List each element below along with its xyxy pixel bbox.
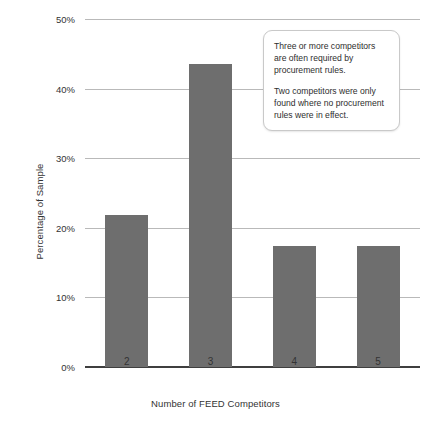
bar-2[interactable] <box>105 215 148 367</box>
y-tick-label-40%: 40% <box>13 83 75 94</box>
bar-4[interactable] <box>273 246 316 367</box>
y-tick-label-0%: 0% <box>13 362 75 373</box>
bar-5[interactable] <box>357 246 400 367</box>
annotation-callout: Three or more competitors are often requ… <box>263 30 400 131</box>
x-tick-label-4: 4 <box>273 356 316 367</box>
y-axis-title: Percentage of Sample <box>26 0 52 423</box>
bar-3[interactable] <box>189 64 232 367</box>
x-tick-label-3: 3 <box>189 356 232 367</box>
x-tick-label-5: 5 <box>357 356 400 367</box>
y-tick-label-10%: 10% <box>13 292 75 303</box>
x-axis-title: Number of FEED Competitors <box>0 398 431 409</box>
y-tick-label-50%: 50% <box>13 14 75 25</box>
y-tick-label-20%: 20% <box>13 222 75 233</box>
y-tick-label-30%: 30% <box>13 153 75 164</box>
annotation-paragraph-2: Two competitors were only found where no… <box>274 85 390 122</box>
bar-chart: Percentage of Sample 0%10%20%30%40%50% 2… <box>0 0 431 423</box>
annotation-paragraph-1: Three or more competitors are often requ… <box>274 40 390 77</box>
x-tick-label-2: 2 <box>105 356 148 367</box>
